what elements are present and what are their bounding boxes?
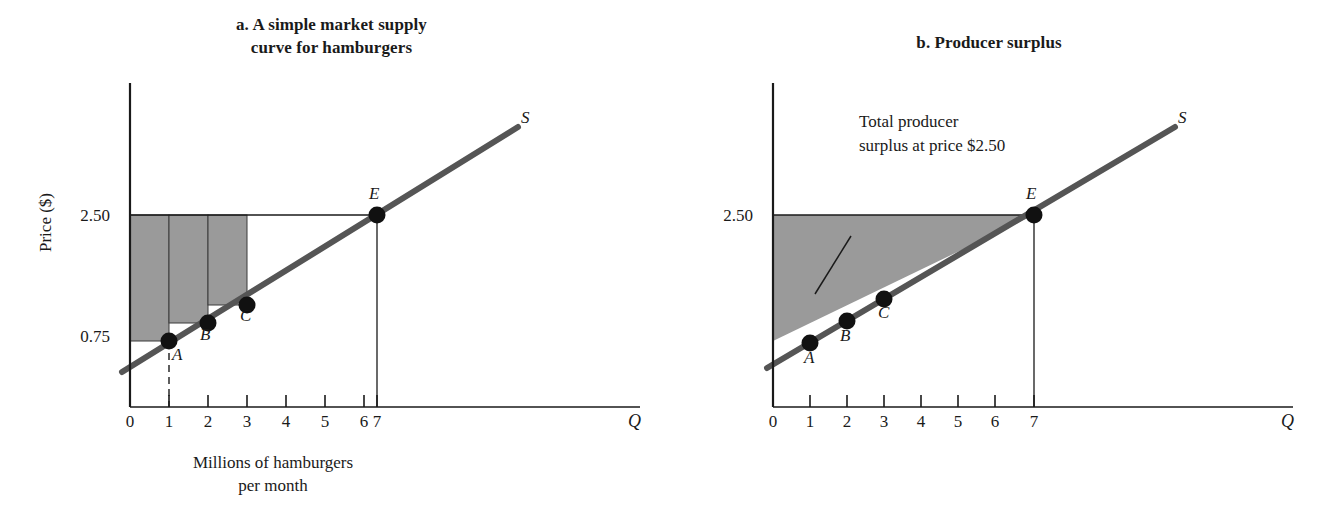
panel-a-label-c: C — [240, 306, 251, 326]
panel-a-x-axis-symbol: Q — [628, 411, 641, 432]
panel-b-xtick-2: 2 — [836, 412, 858, 432]
panel-a-xtick-0: 0 — [119, 412, 141, 432]
panel-b-supply-curve-label: S — [1178, 108, 1187, 128]
panel-b-annotation: Total producer surplus at price $2.50 — [859, 110, 1005, 158]
panel-a: a. A simple market supply curve for hamb… — [0, 0, 663, 527]
panel-a-point-e — [369, 207, 386, 224]
panel-a-xtick-5: 5 — [314, 412, 336, 432]
panel-a-xtick-1: 1 — [158, 412, 180, 432]
panel-b-xtick-1: 1 — [799, 412, 821, 432]
panel-b-label-a: A — [804, 348, 814, 368]
panel-b-xtick-0: 0 — [762, 412, 784, 432]
panel-a-xtick-7: 7 — [366, 412, 388, 432]
panel-a-x-axis-caption: Millions of hamburgers per month — [108, 452, 438, 498]
panel-b-xtick-6: 6 — [984, 412, 1006, 432]
panel-b-label-e: E — [1026, 184, 1036, 204]
panel-b-x-axis-symbol: Q — [1281, 411, 1294, 432]
panel-b-point-e — [1026, 207, 1043, 224]
panel-b-label-c: C — [878, 303, 889, 323]
panel-b-xtick-4: 4 — [910, 412, 932, 432]
panel-a-xtick-2: 2 — [197, 412, 219, 432]
panel-a-xtick-4: 4 — [275, 412, 297, 432]
panel-a-label-b: B — [200, 325, 210, 345]
panel-a-x-ticks — [130, 395, 377, 407]
panel-a-supply-curve-label: S — [521, 108, 530, 128]
panel-b-xtick-5: 5 — [947, 412, 969, 432]
panel-a-surplus-bars — [130, 215, 247, 341]
panel-b-label-b: B — [840, 326, 850, 346]
panel-b-xtick-7: 7 — [1023, 412, 1045, 432]
panel-b: b. Producer surplus Price ($) 2.50 — [663, 0, 1326, 527]
panel-b-plot-area — [663, 0, 1326, 527]
panel-b-x-ticks — [773, 395, 1034, 407]
panel-a-xtick-3: 3 — [236, 412, 258, 432]
panel-a-label-a: A — [172, 345, 182, 365]
panel-a-label-e: E — [369, 184, 379, 204]
panel-b-xtick-3: 3 — [873, 412, 895, 432]
figure-producer-surplus: a. A simple market supply curve for hamb… — [0, 0, 1326, 527]
panel-a-plot-area — [0, 0, 663, 527]
